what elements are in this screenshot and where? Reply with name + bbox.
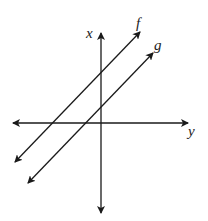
horizontal-axis-label: y (186, 123, 195, 139)
vertical-axis-label: x (85, 25, 93, 41)
line-f (15, 32, 140, 162)
line-g (28, 53, 153, 183)
coordinate-diagram: x y f g (0, 0, 208, 221)
line-g-label: g (154, 37, 162, 53)
line-f-label: f (136, 15, 142, 31)
